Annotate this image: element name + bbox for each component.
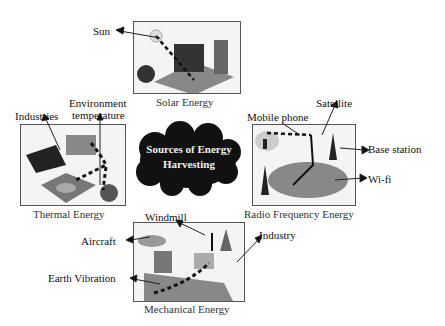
label-industry: Industry [259,229,296,241]
label-temperature: temperature [72,109,125,121]
label-environment: Environment [69,97,126,109]
label-sun: Sun [93,25,110,37]
label-base-station: Base station [368,143,421,155]
label-windmill: Windmill [145,211,187,223]
center-title: Sources of Energy Harvesting [136,142,242,172]
label-aircraft: Aircraft [81,235,116,247]
label-wifi: Wi-fi [368,173,391,185]
label-satellite: Satellite [316,97,352,109]
label-mobile-phone: Mobile phone [247,111,308,123]
label-industries: Industries [15,110,58,122]
label-earth-vibration: Earth Vibration [48,272,116,284]
